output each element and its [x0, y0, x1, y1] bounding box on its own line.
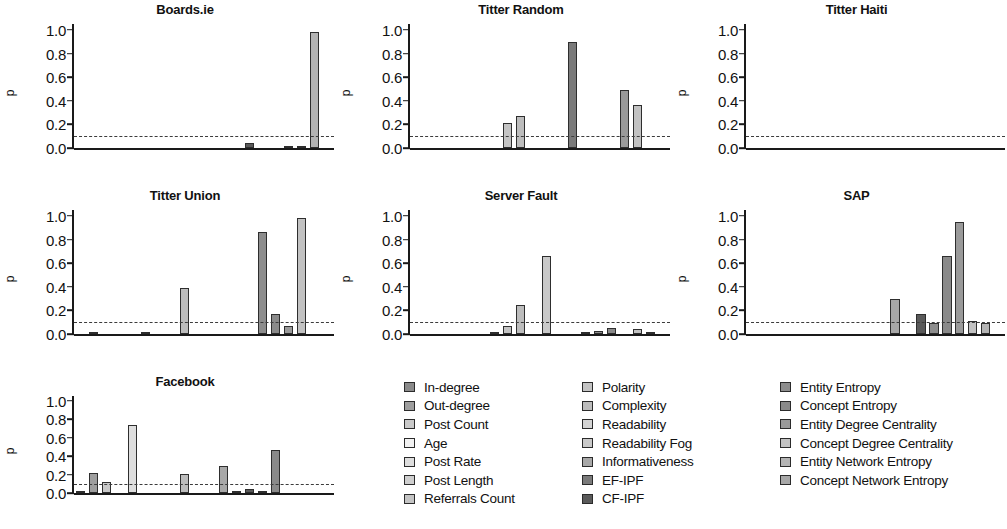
legend-swatch-icon [404, 419, 415, 429]
x-axis-line [74, 334, 334, 336]
legend-item: Informativeness [582, 452, 780, 471]
bar [568, 42, 578, 148]
bar [503, 326, 513, 334]
y-axis: 1.00.80.60.40.20.0 [30, 18, 74, 186]
legend-label: Referrals Count [424, 491, 515, 506]
y-axis-label: p [339, 90, 353, 97]
panel-title: Titter Union [0, 188, 336, 203]
chart-panel: SAPp1.00.80.60.40.20.0 [672, 186, 1007, 372]
legend-item: Out-degree [404, 397, 582, 416]
y-tick-label: 0.6 [46, 429, 66, 446]
legend-item: Concept Entropy [780, 397, 1007, 416]
y-tick-label: 0.2 [382, 302, 402, 319]
bar-series [74, 18, 334, 186]
y-axis-label: p [3, 447, 17, 454]
bar-series [74, 390, 334, 529]
legend-item: Readability Fog [582, 434, 780, 453]
legend-swatch-icon [780, 419, 791, 429]
y-tick-mark [739, 53, 746, 55]
bar [271, 314, 281, 334]
y-tick-mark [67, 239, 74, 241]
y-tick-mark [67, 474, 74, 476]
legend-label: EF-IPF [602, 473, 643, 488]
bar [633, 105, 643, 148]
significance-threshold-line [74, 136, 334, 137]
legend-label: Entity Degree Centrality [800, 417, 937, 432]
bar [890, 299, 900, 334]
legend-label: Entity Entropy [800, 380, 881, 395]
bar [219, 466, 229, 493]
legend-label: CF-IPF [602, 491, 644, 506]
legend-item: Complexity [582, 397, 780, 416]
y-tick-mark [739, 29, 746, 31]
y-tick-mark [739, 262, 746, 264]
legend-label: Out-degree [424, 398, 490, 413]
legend-swatch-icon [780, 382, 791, 392]
legend-item: Polarity [582, 378, 780, 397]
y-tick-mark [67, 215, 74, 217]
y-tick-label: 0.0 [718, 140, 738, 157]
legend-label: Concept Entropy [800, 398, 897, 413]
y-axis-label: p [3, 90, 17, 97]
legend-label: Entity Network Entropy [800, 454, 932, 469]
y-tick-label: 0.2 [46, 466, 66, 483]
y-tick-label: 0.6 [382, 69, 402, 86]
legend-swatch-icon [582, 494, 593, 504]
legend-item: Post Length [404, 471, 582, 490]
y-tick-label: 0.8 [46, 231, 66, 248]
y-tick-label: 0.0 [46, 140, 66, 157]
y-tick-label: 1.0 [46, 21, 66, 38]
chart-panel: Titter Haitip1.00.80.60.40.20.0 [672, 0, 1007, 186]
bar-series [746, 204, 1005, 372]
plot-area [410, 18, 670, 186]
y-tick-label: 0.8 [718, 231, 738, 248]
y-tick-label: 1.0 [46, 392, 66, 409]
significance-threshold-line [74, 484, 334, 485]
y-tick-mark [67, 286, 74, 288]
bar [128, 425, 138, 493]
y-tick-mark [67, 333, 74, 335]
y-tick-label: 0.4 [382, 278, 402, 295]
y-tick-label: 0.4 [46, 448, 66, 465]
legend-item: CF-IPF [582, 490, 780, 509]
plot-area [74, 18, 334, 186]
plot-area [74, 204, 334, 372]
legend-item: Entity Network Entropy [780, 452, 1007, 471]
y-tick-mark [67, 400, 74, 402]
y-tick-label: 0.0 [46, 326, 66, 343]
y-tick-label: 0.6 [46, 255, 66, 272]
legend-item: In-degree [404, 378, 582, 397]
legend-swatch-icon [404, 494, 415, 504]
chart-legend: In-degreeOut-degreePost CountAgePost Rat… [336, 378, 1007, 529]
legend-label: Polarity [602, 380, 645, 395]
y-axis: 1.00.80.60.40.20.0 [30, 390, 74, 529]
y-tick-mark [739, 124, 746, 126]
legend-swatch-icon [780, 401, 791, 411]
y-tick-mark [67, 455, 74, 457]
y-tick-mark [739, 333, 746, 335]
significance-threshold-line [74, 322, 334, 323]
plot-region: 1.00.80.60.40.20.0 [702, 18, 1005, 186]
significance-threshold-line [746, 322, 1005, 323]
legend-swatch-icon [582, 382, 593, 392]
legend-item: Post Count [404, 415, 582, 434]
y-axis: 1.00.80.60.40.20.0 [702, 18, 746, 186]
legend-label: Concept Network Entropy [800, 473, 948, 488]
panel-title: Boards.ie [0, 2, 336, 17]
bar [258, 232, 268, 334]
panel-title: Titter Haiti [672, 2, 1007, 17]
legend-swatch-icon [404, 457, 415, 467]
bar [297, 218, 307, 334]
plot-area [746, 18, 1005, 186]
chart-panel: Facebookp1.00.80.60.40.20.0 [0, 372, 336, 529]
y-axis-label: p [675, 276, 689, 283]
legend-item: Age [404, 434, 582, 453]
legend-swatch-icon [582, 401, 593, 411]
y-tick-mark [739, 215, 746, 217]
y-tick-label: 0.4 [46, 278, 66, 295]
bar-series [74, 204, 334, 372]
bar [271, 450, 281, 493]
bar [284, 326, 294, 334]
legend-label: Age [424, 436, 447, 451]
legend-swatch-icon [582, 475, 593, 485]
